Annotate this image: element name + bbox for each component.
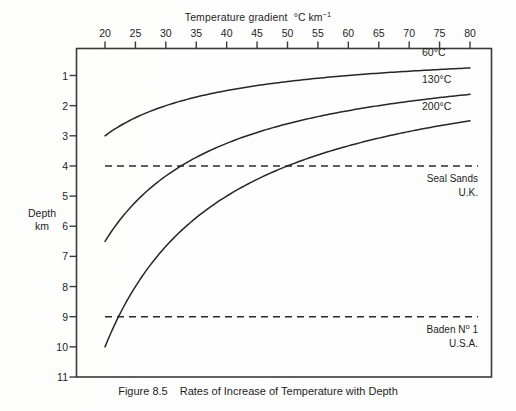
curve-label-60c: 60°C bbox=[422, 46, 445, 58]
y-tick-marks bbox=[70, 76, 77, 378]
annotation-baden-line1: Baden No 1 bbox=[350, 323, 478, 337]
curve-60c bbox=[105, 68, 470, 136]
annotation-baden-post: 1 bbox=[470, 324, 478, 335]
annotation-seal-sands-line1: Seal Sands bbox=[350, 172, 478, 186]
isotherm-curves bbox=[105, 68, 470, 347]
annotation-baden-line2: U.S.A. bbox=[350, 337, 478, 351]
annotation-seal-sands-line2: U.K. bbox=[350, 186, 478, 200]
annotation-baden-no-1: Baden No 1 U.S.A. bbox=[350, 323, 478, 351]
figure-container: Temperature gradient °C km−1 20253035404… bbox=[0, 0, 516, 411]
figure-caption-text: Rates of Increase of Temperature with De… bbox=[180, 385, 398, 397]
x-tick-marks bbox=[105, 42, 470, 49]
annotation-baden-pre: Baden N bbox=[427, 324, 466, 335]
figure-caption: Figure 8.5Rates of Increase of Temperatu… bbox=[0, 385, 516, 397]
curve-label-130c: 130°C bbox=[422, 73, 451, 85]
curve-200c bbox=[105, 121, 470, 347]
figure-caption-number: Figure 8.5 bbox=[118, 385, 168, 397]
curve-label-200c: 200°C bbox=[422, 100, 451, 112]
curve-130c bbox=[105, 94, 470, 241]
annotation-seal-sands: Seal Sands U.K. bbox=[350, 172, 478, 200]
